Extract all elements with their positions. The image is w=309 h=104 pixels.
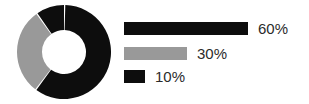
legend-swatch-10 bbox=[124, 70, 145, 83]
legend-label-10: 10% bbox=[155, 69, 185, 84]
legend-swatch-60 bbox=[124, 22, 248, 35]
legend-swatch-30 bbox=[124, 47, 187, 60]
donut-chart-figure: 60% 30% 10% bbox=[0, 0, 309, 104]
donut-chart bbox=[17, 5, 111, 99]
legend-item-30[interactable]: 30% bbox=[124, 46, 227, 60]
legend-label-60: 60% bbox=[258, 21, 288, 36]
legend-item-60[interactable]: 60% bbox=[124, 21, 288, 35]
legend-item-10[interactable]: 10% bbox=[124, 69, 185, 83]
legend-label-30: 30% bbox=[197, 46, 227, 61]
chart-legend: 60% 30% 10% bbox=[124, 18, 309, 90]
donut-chart-svg bbox=[17, 5, 111, 99]
